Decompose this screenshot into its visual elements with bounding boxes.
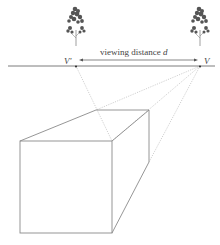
construction-line-v-to-back-bottom <box>149 66 200 162</box>
box-bottom-right-edge <box>112 162 149 233</box>
label-viewing-distance: viewing distance d <box>100 47 168 57</box>
arrowhead-right-icon <box>194 59 198 62</box>
construction-lines <box>76 66 200 162</box>
construction-line-vprime-to-front-top <box>76 66 112 141</box>
viewing-distance-arrow <box>79 59 198 62</box>
construction-line-v-to-back-left <box>96 66 200 110</box>
arrowhead-left-icon <box>79 59 83 62</box>
label-left-vanishing-point: V' <box>64 56 72 66</box>
box-front-face <box>20 141 112 233</box>
box-top-right-edge <box>112 110 149 141</box>
tree-right-icon <box>190 7 209 46</box>
perspective-diagram: V' V viewing distance d <box>0 0 220 245</box>
label-right-vanishing-point: V <box>204 56 211 66</box>
vanishing-point-right <box>199 65 201 67</box>
perspective-box <box>20 110 149 233</box>
tree-left-icon <box>66 7 85 46</box>
vanishing-point-left <box>75 65 77 67</box>
box-top-left-edge <box>20 110 96 141</box>
